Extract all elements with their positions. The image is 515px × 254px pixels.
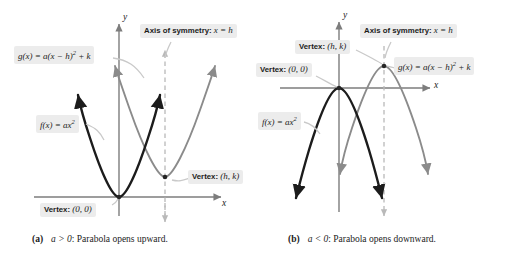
callout-f-formula: f(x) = ax2 [258, 112, 301, 130]
vertex-hk-math: (h, k) [220, 171, 239, 181]
vertex-hk-lead: Vertex: [192, 172, 220, 181]
panel-a-opens-upward: x y g(x) = a(x − h)2 + k f(x) = ax2 Axis… [0, 0, 257, 254]
callout-vertex-hk: Vertex: (h, k) [188, 170, 243, 184]
curve-g [384, 66, 428, 174]
callout-vertex-origin: Vertex: (0, 0) [256, 63, 312, 77]
f-formula-exponent: 2 [72, 118, 75, 125]
caption-a-tag: (a) [32, 234, 43, 244]
callout-axis-of-symmetry: Axis of symmetry: x = h [140, 24, 237, 38]
axis-of-symmetry-lead: Axis of symmetry: [144, 26, 214, 35]
x-axis-label: x [434, 80, 438, 90]
vertex-dot-hk [382, 64, 387, 69]
f-formula-lead: f(x) = ax [40, 120, 72, 130]
curve-f-left [296, 88, 339, 198]
y-axis-label: y [123, 12, 127, 22]
caption-panel-b: (b)a < 0: Parabola opens downward. [288, 234, 436, 244]
leader-axis-symmetry [165, 42, 171, 58]
g-formula-lead: g(x) = a(x − h) [18, 51, 73, 61]
panel-b-opens-downward: x y Axis of symmetry: x = h Vertex: (h, … [258, 0, 515, 254]
g-formula-tail: + k [456, 62, 471, 72]
vertex-origin-lead: Vertex: [260, 65, 288, 74]
axis-of-symmetry-math: x = h [214, 25, 233, 35]
curve-g [165, 66, 215, 177]
figure-root: x y g(x) = a(x − h)2 + k f(x) = ax2 Axis… [0, 0, 515, 254]
vertex-origin-lead: Vertex: [44, 205, 72, 214]
curve-f-left [78, 95, 119, 197]
curve-g-left [340, 66, 384, 174]
vertex-dot-hk [163, 175, 168, 180]
leader-vertex-hk [356, 50, 382, 64]
callout-g-formula: g(x) = a(x − h)2 + k [14, 46, 94, 64]
g-formula-tail: + k [76, 51, 91, 61]
y-axis-label: y [343, 10, 347, 20]
x-axis-label: x [222, 198, 226, 208]
f-formula-lead: f(x) = ax [262, 117, 294, 127]
callout-vertex-hk: Vertex: (h, k) [295, 40, 350, 54]
callout-vertex-origin: Vertex: (0, 0) [40, 203, 96, 217]
vertex-origin-math: (0, 0) [72, 204, 92, 214]
caption-panel-a: (a)a > 0: Parabola opens upward. [32, 234, 168, 244]
vertex-hk-math: (h, k) [327, 41, 346, 51]
axis-of-symmetry-lead: Axis of symmetry: [364, 26, 434, 35]
caption-b-condition: a < 0 [308, 234, 329, 244]
vertex-dot-origin [117, 195, 122, 200]
leader-axis-symmetry [385, 42, 391, 58]
callout-f-formula: f(x) = ax2 [36, 115, 79, 133]
caption-b-tag: (b) [288, 234, 300, 244]
callout-g-formula: g(x) = a(x − h)2 + k [394, 57, 474, 75]
caption-a-text: : Parabola opens upward. [72, 234, 168, 244]
g-formula-lead: g(x) = a(x − h) [398, 62, 453, 72]
vertex-hk-lead: Vertex: [299, 42, 327, 51]
leader-vertex-origin [112, 199, 118, 205]
leader-vertex-origin [316, 76, 337, 87]
f-formula-exponent: 2 [294, 115, 297, 122]
caption-a-condition: a > 0 [51, 234, 72, 244]
callout-axis-of-symmetry: Axis of symmetry: x = h [360, 24, 457, 38]
vertex-origin-math: (0, 0) [288, 64, 308, 74]
caption-b-text: : Parabola opens downward. [328, 234, 436, 244]
curve-f [119, 95, 160, 197]
axis-of-symmetry-math: x = h [434, 25, 453, 35]
vertex-dot-origin [337, 86, 342, 91]
